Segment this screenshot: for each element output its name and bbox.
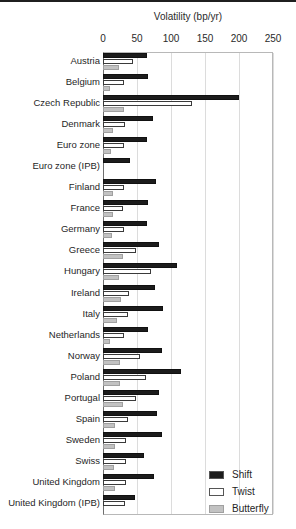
row-label: Euro zone (IPB) [0,157,103,174]
bar-twist [103,480,126,485]
row-bars [103,347,273,366]
bar-butterfly [103,128,113,133]
row-label: Belgium [0,73,103,90]
bar-shift [103,285,155,290]
table-row: Netherlands [0,326,296,347]
row-label: Greece [0,241,103,258]
bar-twist [103,501,125,506]
row-bars [103,305,273,324]
bar-twist [103,459,126,464]
bar-shift [103,306,163,311]
row-label: Spain [0,410,103,427]
bar-butterfly [103,465,114,470]
table-row: Spain [0,410,296,431]
bar-twist [103,185,124,190]
row-bars [103,220,273,239]
table-row: Greece [0,241,296,262]
x-axis-tick-label: 0 [100,33,106,44]
row-label: Swiss [0,452,103,469]
bar-twist [103,206,123,211]
row-bars [103,52,273,71]
row-label: Austria [0,52,103,69]
bar-twist [103,101,192,106]
x-axis-tick-label: 100 [163,33,180,44]
table-row: Denmark [0,115,296,136]
table-row: France [0,199,296,220]
row-bars [103,262,273,281]
row-label: Sweden [0,431,103,448]
legend-label: Butterfly [224,503,269,514]
row-label: Germany [0,220,103,237]
bar-butterfly [103,65,119,70]
legend-item: Twist [209,483,269,500]
row-bars [103,178,273,197]
table-row: Euro zone (IPB) [0,157,296,178]
table-row: Portugal [0,389,296,410]
bar-butterfly [103,191,113,196]
chart-title: Volatility (bp/yr) [103,11,273,22]
row-bars [103,241,273,260]
bar-butterfly [103,212,113,217]
row-bars [103,136,273,155]
row-label: Norway [0,347,103,364]
bar-butterfly [103,149,111,154]
table-row: Germany [0,220,296,241]
row-bars [103,73,273,92]
bar-twist [103,227,124,232]
row-label: Czech Republic [0,94,103,111]
row-label: Hungary [0,262,103,279]
bar-twist [103,248,136,253]
row-bars [103,115,273,134]
bar-rows: AustriaBelgiumCzech RepublicDenmarkEuro … [0,52,296,515]
bar-twist [103,333,124,338]
bar-shift [103,200,148,205]
bar-twist [103,122,125,127]
bar-twist [103,438,126,443]
row-bars [103,326,273,345]
row-bars [103,431,273,450]
bar-twist [103,80,124,85]
table-row: Poland [0,368,296,389]
row-bars [103,94,273,113]
bar-butterfly [103,339,110,344]
bar-shift [103,137,147,142]
bar-twist [103,269,151,274]
row-bars [103,389,273,408]
bar-shift [103,179,156,184]
bar-twist [103,143,124,148]
bar-butterfly [103,297,121,302]
bar-shift [103,116,153,121]
x-axis-tick-label: 250 [265,33,282,44]
bar-twist [103,396,136,401]
bar-butterfly [103,360,120,365]
bar-shift [103,390,159,395]
bar-butterfly [103,486,115,491]
row-bars [103,410,273,429]
table-row: Belgium [0,73,296,94]
row-label: Finland [0,178,103,195]
bar-butterfly [103,381,120,386]
table-row: Euro zone [0,136,296,157]
legend-swatch-butterfly [209,505,224,513]
legend-swatch-shift [209,471,224,479]
bar-shift [103,158,130,163]
bar-shift [103,221,147,226]
bar-shift [103,263,177,268]
bar-twist [103,59,133,64]
legend-item: Shift [209,466,269,483]
bar-shift [103,369,181,374]
bar-shift [103,495,135,500]
table-row: Finland [0,178,296,199]
row-label: Italy [0,305,103,322]
row-bars [103,368,273,387]
legend-label: Shift [224,469,252,480]
bar-butterfly [103,318,117,323]
x-axis-tick-label: 200 [231,33,248,44]
table-row: Hungary [0,262,296,283]
row-label: Portugal [0,389,103,406]
legend-item: Butterfly [209,500,269,517]
bar-shift [103,474,154,479]
bar-twist [103,291,129,296]
table-row: Ireland [0,284,296,305]
bar-butterfly [103,254,123,259]
